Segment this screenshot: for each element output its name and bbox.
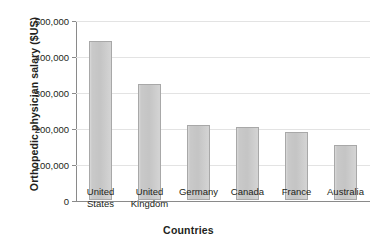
gridline [76, 93, 370, 94]
y-tick-mark [72, 165, 76, 166]
y-tick-label: 300,000 [35, 88, 69, 99]
y-tick-mark [72, 93, 76, 94]
y-tick-label: 500,000 [35, 16, 69, 27]
gridline [76, 21, 370, 22]
y-tick-label: 100,000 [35, 160, 69, 171]
gridline [76, 165, 370, 166]
plot-area: 0100,000200,000300,000400,000500,000 [76, 21, 370, 201]
y-axis-title: Orthopedic physician salary ($US) [28, 9, 40, 199]
gridline [76, 57, 370, 58]
x-tick-label-line: Australia [310, 186, 377, 198]
bar [89, 41, 112, 200]
bar [138, 84, 161, 200]
x-axis-title: Countries [0, 224, 377, 236]
bar-chart: Orthopedic physician salary ($US) 0100,0… [0, 0, 377, 244]
gridline [76, 129, 370, 130]
y-tick-label: 200,000 [35, 124, 69, 135]
y-tick-mark [72, 21, 76, 22]
y-axis-line [76, 21, 77, 202]
y-tick-mark [72, 57, 76, 58]
y-tick-mark [72, 129, 76, 130]
x-tick-label: Australia [310, 186, 377, 198]
y-tick-label: 400,000 [35, 52, 69, 63]
x-tick-label-line: Kingdom [114, 198, 186, 210]
